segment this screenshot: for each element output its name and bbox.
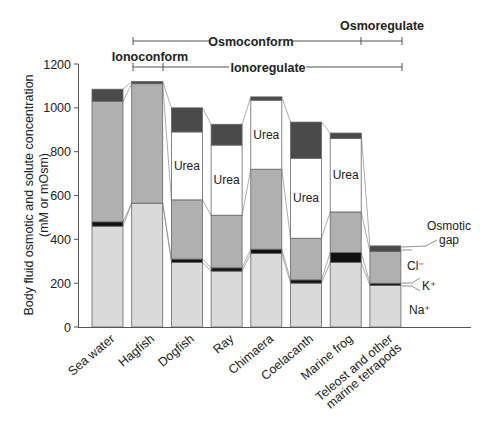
segment-cl- xyxy=(291,238,322,280)
segment-cl- xyxy=(251,169,282,249)
bar-dogfish: Urea xyxy=(171,108,202,327)
segment-na- xyxy=(291,283,322,327)
segment-osmotic-gap xyxy=(370,246,401,251)
osmoconform-label: Osmoconform xyxy=(208,35,293,49)
osmoregulate-label: Osmoregulate xyxy=(340,19,424,33)
segment-na- xyxy=(251,254,282,327)
y-tick-label: 1000 xyxy=(43,101,71,115)
bar-marine-frog: Urea xyxy=(330,133,361,327)
segment-k- xyxy=(171,259,202,262)
segment-osmotic-gap xyxy=(132,82,163,84)
y-tick-label: 0 xyxy=(64,321,71,335)
segment-osmotic-gap xyxy=(211,124,242,145)
bar-sea-water xyxy=(92,89,123,327)
urea-label: Urea xyxy=(174,159,200,173)
y-tick-label: 1200 xyxy=(43,58,71,72)
segment-cl- xyxy=(171,200,202,259)
x-axis-tick-labels: Sea waterHagfishDogfishRayChimaeraCoelac… xyxy=(65,331,404,412)
segment-osmotic-gap xyxy=(330,133,361,138)
legend-na-label: Na⁺ xyxy=(409,303,430,317)
segment-k- xyxy=(251,249,282,253)
bar-ray: Urea xyxy=(211,124,242,327)
legend-k-label: K⁺ xyxy=(422,279,436,293)
y-tick-label: 600 xyxy=(50,189,71,203)
ionoconform-label: Ionoconform xyxy=(112,50,188,64)
legend-cl-label: Cl⁻ xyxy=(407,259,424,273)
legend-gap-label-line2: gap xyxy=(439,233,459,247)
urea-label: Urea xyxy=(253,128,279,142)
segment-osmotic-gap xyxy=(251,97,282,100)
y-tick-label: 400 xyxy=(50,233,71,247)
segment-k- xyxy=(92,222,123,226)
segment-osmotic-gap xyxy=(171,108,202,132)
segment-cl- xyxy=(211,215,242,268)
urea-label: Urea xyxy=(214,173,240,187)
x-tick-label: Hagfish xyxy=(116,332,158,370)
y-tick-label: 200 xyxy=(50,277,71,291)
urea-label: Urea xyxy=(293,191,319,205)
segment-cl- xyxy=(330,212,361,253)
osmolarity-stacked-bar-chart: Body fluid osmotic and solute concentrat… xyxy=(0,0,495,430)
segment-na- xyxy=(92,226,123,327)
segment-na- xyxy=(370,285,401,327)
segment-k- xyxy=(291,280,322,283)
segment-na- xyxy=(330,262,361,327)
segment-na- xyxy=(171,262,202,327)
bar-coelacanth: Urea xyxy=(291,122,322,327)
segment-na- xyxy=(211,271,242,327)
bars: UreaUreaUreaUreaUrea xyxy=(92,82,401,327)
legend-gap-label-line1: Osmotic xyxy=(427,219,471,233)
segment-cl- xyxy=(370,251,401,283)
segment-k- xyxy=(211,268,242,271)
segment-na- xyxy=(132,203,163,327)
segment-k- xyxy=(330,252,361,262)
urea-label: Urea xyxy=(333,168,359,182)
legend-gap-leader xyxy=(402,240,437,247)
y-axis-title: Body fluid osmotic and solute concentrat… xyxy=(22,74,36,315)
bar-hagfish xyxy=(132,82,163,327)
bar-teleost-and-other xyxy=(370,246,401,327)
bar-chimaera: Urea xyxy=(251,97,282,327)
segment-cl- xyxy=(132,84,163,203)
segment-osmotic-gap xyxy=(92,89,123,101)
segment-osmotic-gap xyxy=(291,122,322,158)
x-tick-label: Dogfish xyxy=(155,332,197,370)
segment-cl- xyxy=(92,101,123,222)
x-tick-label: Ray xyxy=(210,331,237,356)
y-tick-label: 800 xyxy=(50,145,71,159)
legend-k-leader xyxy=(402,278,420,283)
ionoregulate-label: Ionoregulate xyxy=(230,61,305,75)
y-axis-units: (mM or mOsm) xyxy=(37,153,51,237)
x-tick-label: Sea water xyxy=(65,332,117,379)
legend: Osmotic gap Cl⁻ K⁺ Na⁺ xyxy=(402,219,471,317)
